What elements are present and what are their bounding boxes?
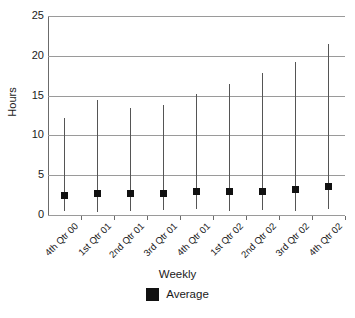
x-axis-tick [279, 216, 280, 220]
x-axis-tick [345, 216, 346, 220]
y-axis-tick-label: 0 [22, 209, 44, 220]
y-axis-tick-labels: 0510152025 [22, 0, 44, 230]
gridline [48, 215, 345, 216]
average-marker [127, 190, 134, 197]
x-axis-tick [180, 216, 181, 220]
x-axis-tick [213, 216, 214, 220]
y-axis-title: Hours [6, 72, 18, 132]
chart-legend: Average [0, 288, 355, 301]
x-axis-tick [114, 216, 115, 220]
average-marker [226, 188, 233, 195]
y-axis-tick-label: 20 [22, 50, 44, 61]
gridline [48, 16, 345, 17]
x-axis-tick [246, 216, 247, 220]
hours-weekly-chart: Hours 0510152025 4th Qtr 001st Qtr 012nd… [0, 0, 355, 318]
legend-label-average: Average [166, 288, 209, 301]
y-axis-tick-label: 15 [22, 90, 44, 101]
average-marker [259, 188, 266, 195]
x-axis-tick [147, 216, 148, 220]
average-marker [61, 192, 68, 199]
average-marker [160, 190, 167, 197]
x-axis-tick [312, 216, 313, 220]
x-axis-title: Weekly [0, 268, 355, 281]
average-marker [193, 188, 200, 195]
gridline [48, 56, 345, 57]
average-marker [325, 183, 332, 190]
legend-swatch-average [146, 288, 159, 301]
plot-area [48, 16, 345, 215]
average-marker [94, 190, 101, 197]
y-axis-tick-label: 5 [22, 169, 44, 180]
y-axis-tick-label: 25 [22, 10, 44, 21]
x-axis-tick [81, 216, 82, 220]
average-marker [292, 186, 299, 193]
y-axis-tick-label: 10 [22, 129, 44, 140]
